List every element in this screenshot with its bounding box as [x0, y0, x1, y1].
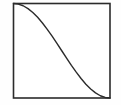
plot-canvas: [0, 0, 121, 105]
chart-figure: [0, 0, 121, 105]
